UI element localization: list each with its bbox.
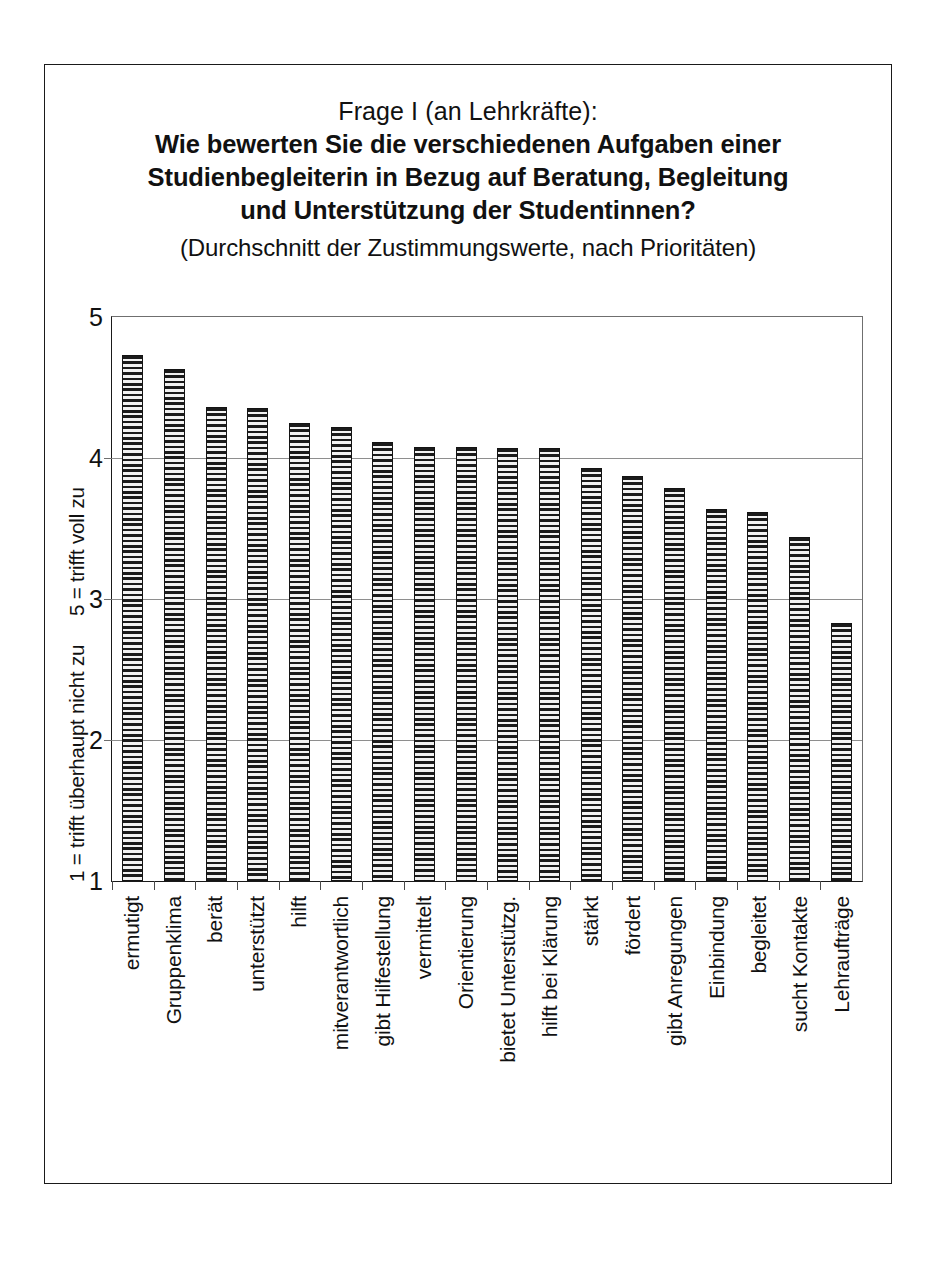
x-tick-mark bbox=[612, 881, 613, 890]
bar bbox=[789, 537, 810, 881]
x-tick-mark bbox=[404, 881, 405, 890]
bar-slot bbox=[779, 317, 821, 881]
x-label-slot: begleitet bbox=[738, 890, 780, 1160]
x-tick-mark bbox=[320, 881, 321, 890]
bar-slot bbox=[445, 317, 487, 881]
x-axis-label: hilft bbox=[287, 896, 311, 928]
x-tick-mark bbox=[154, 881, 155, 890]
bar bbox=[831, 623, 852, 881]
y-tick-label: 3 bbox=[89, 585, 103, 614]
x-axis-label: Orientierung bbox=[454, 896, 478, 1009]
bar bbox=[164, 369, 185, 881]
bar-slot bbox=[362, 317, 404, 881]
x-axis-label: stärkt bbox=[579, 896, 603, 946]
x-label-slot: berät bbox=[195, 890, 237, 1160]
x-axis-label: fördert bbox=[621, 896, 645, 955]
x-label-slot: gibt Anregungen bbox=[654, 890, 696, 1160]
bar bbox=[372, 442, 393, 881]
bar bbox=[497, 448, 518, 881]
x-tick-mark bbox=[529, 881, 530, 890]
y-axis-title-low: 1 = trifft überhaupt nicht zu bbox=[65, 645, 89, 882]
chart-title-line-3: Studienbegleiterin in Bezug auf Beratung… bbox=[45, 161, 891, 194]
chart-page: Frage I (an Lehrkräfte): Wie bewerten Si… bbox=[0, 0, 935, 1268]
bar-slot bbox=[487, 317, 529, 881]
bar-slot bbox=[320, 317, 362, 881]
bar-slot bbox=[570, 317, 612, 881]
x-label-slot: sucht Kontakte bbox=[780, 890, 822, 1160]
bar bbox=[206, 407, 227, 881]
x-label-slot: stärkt bbox=[571, 890, 613, 1160]
x-label-slot: hilft bei Klärung bbox=[529, 890, 571, 1160]
bar-slot bbox=[695, 317, 737, 881]
x-label-slot: unterstützt bbox=[236, 890, 278, 1160]
x-axis-label: vermittelt bbox=[412, 896, 436, 979]
bar-slot bbox=[112, 317, 154, 881]
x-tick-mark bbox=[195, 881, 196, 890]
y-tick-label: 4 bbox=[89, 444, 103, 473]
x-tick-mark bbox=[654, 881, 655, 890]
chart-title-line-2: Wie bewerten Sie die verschiedenen Aufga… bbox=[45, 128, 891, 161]
x-axis-label: Gruppenklima bbox=[162, 896, 186, 1024]
x-axis-label: Einbindung bbox=[705, 896, 729, 999]
x-tick-mark bbox=[737, 881, 738, 890]
bar bbox=[747, 512, 768, 881]
x-axis-label: Lehraufträge bbox=[830, 896, 854, 1013]
y-tick-label: 2 bbox=[89, 726, 103, 755]
bar bbox=[414, 447, 435, 881]
x-axis-label: begleitet bbox=[747, 896, 771, 974]
x-label-slot: Gruppenklima bbox=[153, 890, 195, 1160]
x-tick-mark bbox=[362, 881, 363, 890]
x-label-slot: vermittelt bbox=[403, 890, 445, 1160]
bar bbox=[664, 488, 685, 881]
x-tick-mark bbox=[487, 881, 488, 890]
x-axis-label: gibt Hilfestellung bbox=[371, 896, 395, 1047]
x-tick-mark bbox=[570, 881, 571, 890]
bar-slot bbox=[737, 317, 779, 881]
x-axis-label: hilft bei Klärung bbox=[538, 896, 562, 1037]
x-tick-mark bbox=[237, 881, 238, 890]
bar-slot bbox=[654, 317, 696, 881]
x-axis-label: unterstützt bbox=[245, 896, 269, 992]
x-tick-mark bbox=[445, 881, 446, 890]
x-axis-label: ermutigt bbox=[120, 896, 144, 970]
y-tick-mark bbox=[104, 458, 112, 459]
bar bbox=[122, 355, 143, 881]
bar-slot bbox=[154, 317, 196, 881]
bar-slot bbox=[279, 317, 321, 881]
x-axis-label: bietet Unterstützg. bbox=[496, 896, 520, 1063]
bar bbox=[539, 448, 560, 881]
bar-series bbox=[112, 317, 862, 881]
x-label-slot: fördert bbox=[612, 890, 654, 1160]
bar bbox=[247, 408, 268, 881]
y-tick-mark bbox=[104, 740, 112, 741]
bar bbox=[581, 468, 602, 881]
bar-slot bbox=[404, 317, 446, 881]
x-label-slot: bietet Unterstützg. bbox=[487, 890, 529, 1160]
x-axis-label: gibt Anregungen bbox=[663, 896, 687, 1046]
bar bbox=[706, 509, 727, 881]
x-axis-labels: ermutigtGruppenklimaberätunterstützthilf… bbox=[111, 890, 863, 1160]
plot-area: 12345 bbox=[111, 316, 863, 882]
chart-title-block: Frage I (an Lehrkräfte): Wie bewerten Si… bbox=[45, 95, 891, 265]
x-label-slot: ermutigt bbox=[111, 890, 153, 1160]
x-tick-mark bbox=[779, 881, 780, 890]
chart-title-line-4: und Unterstützung der Studentinnen? bbox=[45, 194, 891, 227]
x-tick-mark bbox=[279, 881, 280, 890]
y-tick-label: 1 bbox=[89, 867, 103, 896]
x-label-slot: hilft bbox=[278, 890, 320, 1160]
y-tick-label: 5 bbox=[89, 303, 103, 332]
x-axis-label: sucht Kontakte bbox=[788, 896, 812, 1032]
x-axis-label: mitverantwortlich bbox=[329, 896, 353, 1050]
y-axis-title-high: 5 = trifft voll zu bbox=[65, 487, 89, 616]
chart-subtitle: (Durchschnitt der Zustimmungswerte, nach… bbox=[45, 231, 891, 265]
x-label-slot: Einbindung bbox=[696, 890, 738, 1160]
chart-title-line-1: Frage I (an Lehrkräfte): bbox=[45, 95, 891, 128]
x-label-slot: mitverantwortlich bbox=[320, 890, 362, 1160]
bar bbox=[456, 447, 477, 881]
x-tick-mark bbox=[112, 881, 113, 890]
bar-slot bbox=[820, 317, 862, 881]
x-axis-label: berät bbox=[203, 896, 227, 943]
bar-slot bbox=[237, 317, 279, 881]
bar bbox=[622, 476, 643, 881]
x-label-slot: gibt Hilfestellung bbox=[362, 890, 404, 1160]
